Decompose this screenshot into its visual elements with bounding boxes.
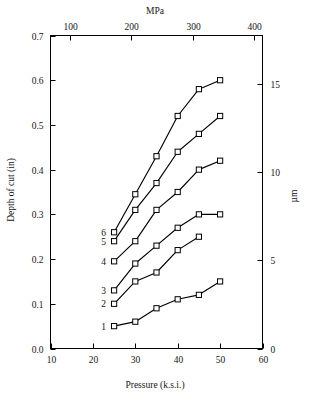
data-point-marker — [133, 207, 138, 212]
data-point-marker — [175, 225, 180, 230]
data-point-marker — [112, 288, 117, 293]
data-point-marker — [196, 131, 201, 136]
data-point-marker — [196, 234, 201, 239]
series-label-2: 2 — [101, 299, 106, 309]
data-point-marker — [133, 319, 138, 324]
data-point-marker — [133, 192, 138, 197]
data-point-marker — [133, 279, 138, 284]
data-point-marker — [154, 306, 159, 311]
data-point-marker — [218, 78, 223, 83]
data-point-marker — [154, 180, 159, 185]
right-tick-label: 0 — [271, 345, 276, 355]
data-point-marker — [218, 113, 223, 118]
series-label-3: 3 — [101, 286, 106, 296]
left-tick-label: 0.4 — [32, 166, 44, 176]
left-tick-label: 0.6 — [32, 76, 44, 86]
chart-background — [0, 0, 311, 395]
chart-figure: MPa Pressure (k.s.i.) Depth of cut (in) … — [0, 0, 311, 395]
data-point-marker — [112, 239, 117, 244]
bottom-axis-title: Pressure (k.s.i.) — [125, 380, 184, 391]
series-label-6: 6 — [101, 228, 106, 238]
bottom-tick-label: 50 — [216, 355, 226, 365]
right-tick-label: 10 — [271, 168, 281, 178]
left-tick-label: 0.0 — [32, 345, 44, 355]
data-point-marker — [175, 189, 180, 194]
top-tick-label: 300 — [186, 22, 201, 32]
data-point-marker — [196, 167, 201, 172]
data-point-marker — [218, 212, 223, 217]
data-point-marker — [175, 248, 180, 253]
right-tick-label: 15 — [271, 80, 281, 90]
top-axis-title: MPa — [146, 6, 165, 16]
data-point-marker — [133, 239, 138, 244]
data-point-marker — [154, 154, 159, 159]
data-point-marker — [154, 207, 159, 212]
data-point-marker — [112, 259, 117, 264]
data-point-marker — [175, 149, 180, 154]
data-point-marker — [196, 292, 201, 297]
series-label-1: 1 — [101, 322, 106, 332]
right-axis-title: µm — [289, 189, 299, 202]
line-chart: MPa Pressure (k.s.i.) Depth of cut (in) … — [0, 0, 311, 395]
left-tick-label: 0.3 — [32, 210, 44, 220]
left-tick-label: 0.2 — [32, 255, 44, 265]
right-tick-label: 5 — [271, 256, 276, 266]
left-tick-label: 0.7 — [32, 32, 44, 42]
data-point-marker — [154, 270, 159, 275]
bottom-tick-label: 20 — [89, 355, 99, 365]
data-point-marker — [112, 324, 117, 329]
series-label-5: 5 — [101, 237, 106, 247]
bottom-tick-label: 10 — [47, 355, 57, 365]
left-tick-label: 0.5 — [32, 121, 44, 131]
data-point-marker — [175, 297, 180, 302]
top-tick-label: 400 — [247, 22, 262, 32]
data-point-marker — [112, 230, 117, 235]
bottom-tick-label: 30 — [131, 355, 141, 365]
data-point-marker — [196, 87, 201, 92]
top-tick-label: 100 — [63, 22, 78, 32]
data-point-marker — [175, 113, 180, 118]
left-tick-label: 0.1 — [32, 300, 44, 310]
data-point-marker — [133, 261, 138, 266]
top-tick-label: 200 — [124, 22, 139, 32]
data-point-marker — [112, 301, 117, 306]
data-point-marker — [218, 158, 223, 163]
data-point-marker — [218, 279, 223, 284]
series-label-4: 4 — [101, 257, 106, 267]
bottom-tick-label: 40 — [174, 355, 184, 365]
data-point-marker — [154, 243, 159, 248]
left-axis-title: Depth of cut (in) — [6, 158, 17, 222]
bottom-tick-label: 60 — [259, 355, 269, 365]
data-point-marker — [196, 212, 201, 217]
